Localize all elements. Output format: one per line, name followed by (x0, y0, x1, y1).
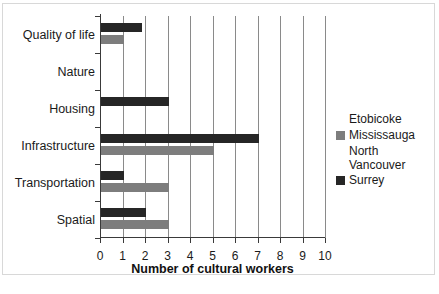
gridline (280, 16, 281, 238)
x-axis-tick-label: 8 (277, 250, 284, 262)
legend-item[interactable]: Mississauga (336, 128, 436, 143)
x-axis-tick (123, 238, 124, 243)
x-axis-tick-label: 2 (142, 250, 149, 262)
legend-swatch-icon (336, 147, 345, 156)
x-axis-tick-label: 7 (254, 250, 261, 262)
legend-item[interactable]: Etobicoke (336, 112, 436, 127)
x-axis-tick (190, 238, 191, 243)
bar (101, 208, 146, 217)
gridline (123, 16, 124, 238)
y-axis-line (100, 14, 101, 239)
x-axis-tick-label: 1 (119, 250, 126, 262)
legend-item[interactable]: North Vancouver (336, 144, 436, 172)
gridline (235, 16, 236, 238)
x-axis-tick (325, 238, 326, 243)
legend-label: Mississauga (349, 128, 415, 142)
gridline (145, 16, 146, 238)
x-axis-tick (145, 238, 146, 243)
bar (101, 23, 142, 32)
x-axis-tick (258, 238, 259, 243)
y-axis-tick (95, 127, 100, 128)
x-axis-tick (100, 238, 101, 243)
legend-label: Surrey (349, 173, 384, 187)
y-axis-tick (95, 90, 100, 91)
x-axis-tick (280, 238, 281, 243)
legend-swatch-icon (336, 115, 345, 124)
category-label: Nature (57, 65, 95, 78)
x-axis-tick (303, 238, 304, 243)
x-axis-tick-label: 0 (97, 250, 104, 262)
chart-figure: 012345678910 Quality of lifeNatureHousin… (0, 0, 439, 294)
gridline (303, 16, 304, 238)
x-axis-tick-label: 6 (232, 250, 239, 262)
legend-item[interactable]: Surrey (336, 173, 436, 188)
legend-swatch-icon (336, 131, 345, 140)
y-axis-tick (95, 53, 100, 54)
gridline (213, 16, 214, 238)
category-label: Quality of life (23, 28, 95, 41)
plot-area: 012345678910 (100, 16, 325, 238)
category-label: Transportation (15, 176, 95, 189)
bar (101, 146, 214, 155)
x-axis-tick (213, 238, 214, 243)
x-axis-tick-label: 9 (299, 250, 306, 262)
gridline (190, 16, 191, 238)
legend-swatch-icon (336, 176, 345, 185)
x-axis-tick-label: 3 (164, 250, 171, 262)
y-axis-tick (95, 16, 100, 17)
y-axis-tick (95, 164, 100, 165)
gridline (325, 16, 326, 238)
gridline (258, 16, 259, 238)
x-axis-tick (235, 238, 236, 243)
legend-label: North Vancouver (349, 144, 405, 172)
x-axis-title: Number of cultural workers (100, 262, 325, 276)
category-label: Spatial (57, 213, 95, 226)
x-axis-tick-label: 4 (187, 250, 194, 262)
x-axis-tick-label: 10 (318, 250, 331, 262)
bar (101, 220, 169, 229)
category-label: Infrastructure (21, 139, 95, 152)
bar (101, 183, 169, 192)
y-axis-tick (95, 201, 100, 202)
bar (101, 35, 124, 44)
gridline (168, 16, 169, 238)
chart-legend: EtobicokeMississaugaNorth VancouverSurre… (336, 112, 436, 189)
bar (101, 134, 259, 143)
x-axis-tick-label: 5 (209, 250, 216, 262)
bar (101, 97, 169, 106)
category-label: Housing (49, 102, 95, 115)
legend-label: Etobicoke (349, 112, 402, 126)
bar (101, 171, 124, 180)
x-axis-tick (168, 238, 169, 243)
